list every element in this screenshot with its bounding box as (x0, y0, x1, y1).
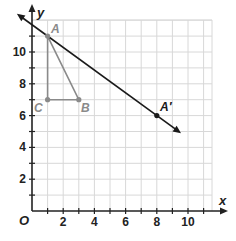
y-tick-label: 8 (19, 77, 26, 91)
axis-ticks (29, 36, 204, 214)
x-tick-label: 10 (181, 215, 195, 229)
point-c (45, 97, 50, 102)
y-axis-label: y (36, 5, 45, 20)
label-a-prime: A′ (159, 100, 173, 114)
point-a (45, 34, 50, 39)
x-axis-label: x (218, 193, 227, 208)
x-tick-label: 4 (91, 215, 98, 229)
x-tick-label: 2 (60, 215, 67, 229)
y-axis-arrow-icon (29, 4, 36, 12)
y-tick-label: 4 (19, 140, 26, 154)
label-c: C (34, 101, 43, 115)
line-through-a-and-a-prime (22, 17, 176, 129)
arrowhead-right-icon (173, 126, 182, 134)
coordinate-graph: A B C A′ x y O 246810246810 (0, 0, 236, 241)
label-b: B (81, 101, 90, 115)
x-tick-label: 8 (153, 215, 160, 229)
tick-labels: 246810246810 (13, 45, 195, 229)
origin-label: O (19, 213, 29, 228)
x-tick-label: 6 (122, 215, 129, 229)
y-tick-label: 2 (19, 172, 26, 186)
label-a: A (50, 22, 60, 36)
y-tick-label: 6 (19, 109, 26, 123)
y-tick-label: 10 (13, 45, 27, 59)
point-a-prime (154, 113, 159, 118)
grid-lines (32, 20, 212, 211)
x-axis-arrow-icon (220, 208, 228, 215)
arrowhead-left-icon (17, 14, 26, 22)
